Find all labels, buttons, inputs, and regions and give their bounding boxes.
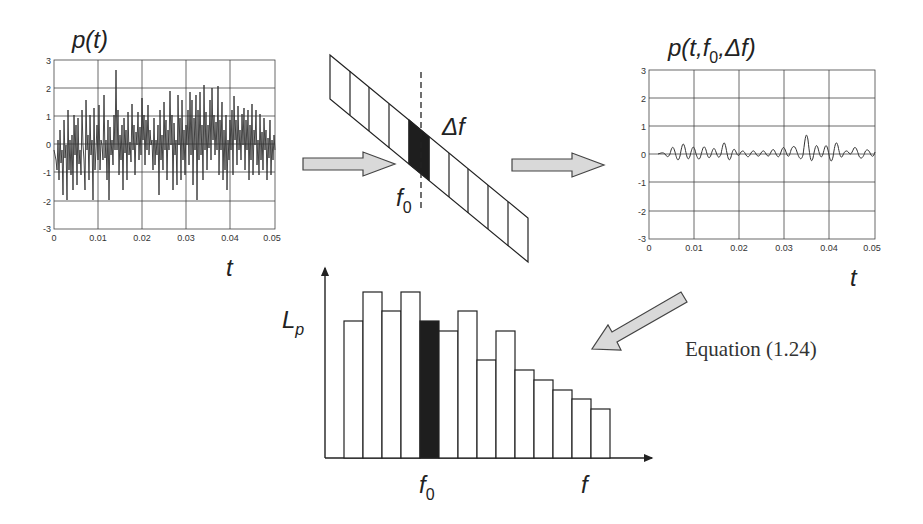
arrow-to-filter xyxy=(303,152,395,176)
svg-text:1: 1 xyxy=(46,112,51,122)
filter-cell-highlighted xyxy=(409,120,429,180)
svg-text:0.05: 0.05 xyxy=(863,243,881,253)
svg-text:-3: -3 xyxy=(638,234,646,244)
spectrum-bars xyxy=(344,292,610,458)
svg-text:0: 0 xyxy=(51,233,56,243)
left-plot-signal xyxy=(54,70,275,200)
svg-text:0.04: 0.04 xyxy=(820,243,838,253)
right-plot-title: p(t,f0,Δf) xyxy=(667,34,756,66)
delta-f-label: Δf xyxy=(441,113,467,140)
svg-text:0.04: 0.04 xyxy=(221,233,239,243)
svg-text:-1: -1 xyxy=(638,178,646,188)
arrow-to-spectrum xyxy=(592,292,687,350)
svg-text:3: 3 xyxy=(46,56,51,66)
svg-text:0: 0 xyxy=(641,150,646,160)
spectrum-chart: Lp f0 f xyxy=(282,268,652,503)
svg-text:0.05: 0.05 xyxy=(263,233,281,243)
spectrum-bar-f0 xyxy=(420,321,439,458)
right-plot-xlabel: t xyxy=(850,264,858,291)
svg-text:1: 1 xyxy=(641,122,646,132)
svg-text:0.03: 0.03 xyxy=(177,233,195,243)
left-plot-y-ticks: 3 2 1 0 -1 -2 -3 xyxy=(43,56,51,234)
right-plot-x-ticks: 0 0.01 0.02 0.03 0.04 0.05 xyxy=(646,243,880,253)
svg-text:0: 0 xyxy=(46,140,51,150)
svg-text:-3: -3 xyxy=(43,224,51,234)
spectrum-ylabel: Lp xyxy=(282,306,304,338)
svg-text:2: 2 xyxy=(46,84,51,94)
svg-text:0: 0 xyxy=(646,243,651,253)
svg-text:0.02: 0.02 xyxy=(133,233,151,243)
spectrum-f0-label: f0 xyxy=(419,471,435,503)
left-plot-title: p(t) xyxy=(71,26,108,53)
svg-text:0.03: 0.03 xyxy=(775,243,793,253)
left-plot-xlabel: t xyxy=(226,254,234,281)
svg-text:-2: -2 xyxy=(638,207,646,217)
left-plot-x-ticks: 0 0.01 0.02 0.03 0.04 0.05 xyxy=(51,233,280,243)
left-plot: p(t) 3 2 1 0 -1 -2 -3 0 0.01 0.02 0.03 xyxy=(43,26,281,281)
svg-text:-1: -1 xyxy=(43,168,51,178)
arrow-to-filtered-plot xyxy=(512,153,604,177)
spectrum-xlabel: f xyxy=(581,471,590,498)
svg-text:0.01: 0.01 xyxy=(89,233,107,243)
svg-text:2: 2 xyxy=(641,94,646,104)
filter-f0-label: f0 xyxy=(396,184,412,216)
svg-text:0.01: 0.01 xyxy=(685,243,703,253)
diagram-canvas: p(t) 3 2 1 0 -1 -2 -3 0 0.01 0.02 0.03 xyxy=(0,0,923,524)
svg-text:3: 3 xyxy=(641,66,646,76)
svg-text:0.02: 0.02 xyxy=(730,243,748,253)
right-plot-grid xyxy=(649,70,875,239)
right-plot-y-ticks: 3 2 1 0 -1 -2 -3 xyxy=(638,66,646,244)
svg-text:-2: -2 xyxy=(43,197,51,207)
right-plot: p(t,f0,Δf) 3 2 1 0 -1 -2 -3 0 0.01 0.02 xyxy=(638,34,881,291)
equation-label: Equation (1.24) xyxy=(685,337,817,361)
right-plot-signal xyxy=(658,135,875,161)
